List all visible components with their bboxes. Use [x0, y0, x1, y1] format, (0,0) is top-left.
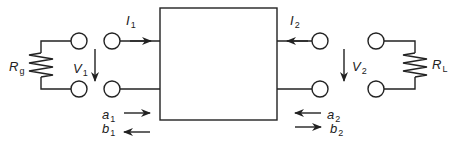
port1-source-top-terminal: [71, 33, 87, 49]
rg-label: Rg: [9, 60, 24, 76]
i2-label: I2: [290, 14, 300, 30]
b1-label: b1: [102, 122, 115, 138]
v1-label: V1: [73, 62, 88, 78]
port2-top-terminal: [312, 33, 328, 49]
port1-source-bottom-terminal: [71, 81, 87, 97]
rl-label: RL: [432, 58, 447, 74]
source-bottom-wire: [41, 77, 71, 89]
b2-label: b2: [330, 122, 343, 138]
source-resistor-icon: [29, 53, 53, 77]
i1-label: I1: [126, 14, 136, 30]
port1-bottom-terminal: [104, 81, 120, 97]
port2-load-bottom-terminal: [368, 81, 384, 97]
port1-top-terminal: [104, 33, 120, 49]
network-box: [160, 8, 277, 120]
v2-label: V2: [352, 60, 367, 76]
load-bottom-wire: [384, 77, 415, 89]
load-top-wire: [384, 41, 415, 53]
port2-load-top-terminal: [368, 33, 384, 49]
source-top-wire: [41, 41, 71, 53]
load-resistor-icon: [403, 53, 427, 77]
port2-bottom-terminal: [312, 81, 328, 97]
two-port-diagram: [0, 0, 452, 148]
